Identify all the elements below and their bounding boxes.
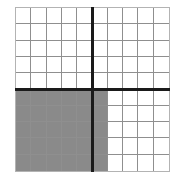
grid-cell-r1-c1	[16, 8, 31, 24]
grid-cell-r9-c1	[16, 138, 31, 154]
grid-cell-r2-c2	[31, 24, 46, 40]
grid-cell-r4-c9	[138, 57, 153, 73]
grid-cell-r8-c7	[108, 122, 123, 138]
grid-cell-r6-c9	[138, 89, 153, 105]
grid-cell-r6-c1	[16, 89, 31, 105]
grid-cell-r3-c1	[16, 41, 31, 57]
grid-cell-r4-c4	[62, 57, 77, 73]
grid-cell-r9-c8	[123, 138, 138, 154]
grid-figure	[0, 0, 181, 180]
grid-cell-r7-c8	[123, 106, 138, 122]
grid-cell-r10-c10	[154, 155, 169, 171]
grid-cell-r7-c4	[62, 106, 77, 122]
grid-cell-r4-c3	[47, 57, 62, 73]
grid-cell-r7-c7	[108, 106, 123, 122]
grid-cell-r9-c9	[138, 138, 153, 154]
grid-cell-r10-c9	[138, 155, 153, 171]
grid-cell-r8-c1	[16, 122, 31, 138]
grid-cell-r6-c2	[31, 89, 46, 105]
grid-cell-r1-c8	[123, 8, 138, 24]
grid-cell-r8-c10	[154, 122, 169, 138]
grid-cell-r4-c10	[154, 57, 169, 73]
grid-cell-r6-c7	[108, 89, 123, 105]
grid-cell-r10-c1	[16, 155, 31, 171]
grid-cell-r1-c9	[138, 8, 153, 24]
grid-cell-r4-c6	[93, 57, 108, 73]
grid-cell-r6-c6	[93, 89, 108, 105]
grid-cell-r6-c4	[62, 89, 77, 105]
grid-cell-r4-c8	[123, 57, 138, 73]
grid-cell-r4-c2	[31, 57, 46, 73]
grid-cell-r3-c2	[31, 41, 46, 57]
grid-cell-r9-c6	[93, 138, 108, 154]
grid-cell-r2-c7	[108, 24, 123, 40]
grid-cell-r10-c7	[108, 155, 123, 171]
grid-cell-r9-c4	[62, 138, 77, 154]
grid-cell-r2-c4	[62, 24, 77, 40]
grid-cell-r10-c8	[123, 155, 138, 171]
grid-cell-r2-c10	[154, 24, 169, 40]
grid-cell-r10-c3	[47, 155, 62, 171]
grid-cell-r2-c9	[138, 24, 153, 40]
grid-cell-r7-c6	[93, 106, 108, 122]
grid-cell-r1-c3	[47, 8, 62, 24]
grid-cell-r3-c8	[123, 41, 138, 57]
grid-cell-r4-c1	[16, 57, 31, 73]
grid-cell-r3-c3	[47, 41, 62, 57]
grid-cell-r7-c1	[16, 106, 31, 122]
grid-cell-r3-c10	[154, 41, 169, 57]
grid-cell-r6-c3	[47, 89, 62, 105]
grid-cell-r7-c9	[138, 106, 153, 122]
grid-cell-r1-c10	[154, 8, 169, 24]
grid-cell-r10-c4	[62, 155, 77, 171]
grid-cell-r7-c2	[31, 106, 46, 122]
grid-cell-r1-c4	[62, 8, 77, 24]
grid-cell-r2-c8	[123, 24, 138, 40]
grid-cell-r6-c8	[123, 89, 138, 105]
grid-cell-r4-c7	[108, 57, 123, 73]
grid-cell-r6-c10	[154, 89, 169, 105]
grid-cell-r8-c6	[93, 122, 108, 138]
grid-cell-r7-c3	[47, 106, 62, 122]
grid-cell-r1-c2	[31, 8, 46, 24]
grid-cell-r3-c7	[108, 41, 123, 57]
grid-cell-r8-c8	[123, 122, 138, 138]
horizontal-axis-line	[15, 88, 170, 91]
grid-cell-r9-c7	[108, 138, 123, 154]
grid-cell-r1-c6	[93, 8, 108, 24]
grid-cell-r9-c2	[31, 138, 46, 154]
grid-cell-r9-c10	[154, 138, 169, 154]
grid-cell-r3-c4	[62, 41, 77, 57]
grid-cell-r8-c3	[47, 122, 62, 138]
grid-cell-r2-c3	[47, 24, 62, 40]
grid-plate	[15, 7, 170, 172]
grid-cell-r1-c7	[108, 8, 123, 24]
grid-cell-r8-c4	[62, 122, 77, 138]
grid-cell-r3-c6	[93, 41, 108, 57]
grid-cell-r2-c1	[16, 24, 31, 40]
grid-cell-r10-c6	[93, 155, 108, 171]
grid-cell-r2-c6	[93, 24, 108, 40]
grid-cell-r7-c10	[154, 106, 169, 122]
grid-cell-r9-c3	[47, 138, 62, 154]
grid-cell-r8-c9	[138, 122, 153, 138]
grid-cell-r10-c2	[31, 155, 46, 171]
grid-cell-r3-c9	[138, 41, 153, 57]
grid-cell-r8-c2	[31, 122, 46, 138]
